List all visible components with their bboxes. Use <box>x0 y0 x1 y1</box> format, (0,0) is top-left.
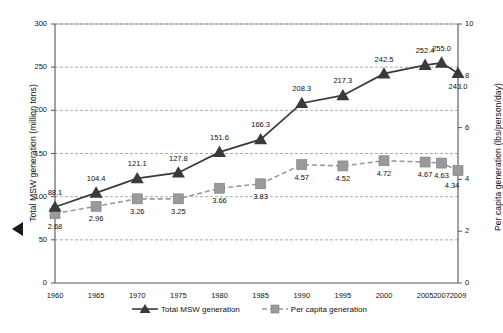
x-axis-tick: 1960 <box>35 291 75 300</box>
legend-label: Per capita generation <box>291 305 367 314</box>
y-axis-right-tick: 2 <box>465 226 491 235</box>
legend-triangle-icon <box>132 303 158 315</box>
data-label-total-msw: 104.4 <box>76 174 116 183</box>
x-axis-tick: 1980 <box>199 291 239 300</box>
y-axis-right-tick: 6 <box>465 123 491 132</box>
data-label-total-msw: 242.5 <box>364 55 404 64</box>
data-label-per-capita: 4.63 <box>422 171 462 180</box>
data-label-per-capita: 4.72 <box>364 169 404 178</box>
y-axis-left-tick: 250 <box>21 62 47 71</box>
legend-item[interactable]: Per capita generation <box>262 303 367 315</box>
legend-item[interactable]: Total MSW generation <box>132 303 240 315</box>
data-label-total-msw: 121.1 <box>117 159 157 168</box>
y-axis-left-tick: 150 <box>21 149 47 158</box>
x-axis-tick: 1970 <box>117 291 157 300</box>
x-axis-tick: 2000 <box>364 291 404 300</box>
data-label-total-msw: 217.3 <box>323 76 363 85</box>
data-label-per-capita: 2.68 <box>35 222 75 231</box>
chart-legend: Total MSW generationPer capita generatio… <box>0 303 499 315</box>
data-label-per-capita: 4.34 <box>432 181 472 190</box>
legend-label: Total MSW generation <box>161 305 240 314</box>
data-label-per-capita: 3.66 <box>199 196 239 205</box>
data-label-total-msw: 127.8 <box>158 154 198 163</box>
data-label-per-capita: 2.96 <box>76 214 116 223</box>
y-axis-left-tick: 300 <box>21 19 47 28</box>
x-axis-tick: 1965 <box>76 291 116 300</box>
x-axis-tick: 1975 <box>158 291 198 300</box>
y-axis-left-tick: 0 <box>21 278 47 287</box>
y-axis-left-tick: 50 <box>21 235 47 244</box>
data-label-total-msw: 243.0 <box>438 82 478 91</box>
y-axis-left-tick: 200 <box>21 105 47 114</box>
data-label-per-capita: 3.26 <box>117 207 157 216</box>
data-label-total-msw: 151.6 <box>199 133 239 142</box>
data-label-total-msw: 88.1 <box>35 188 75 197</box>
data-label-total-msw: 255.0 <box>422 44 462 53</box>
y-axis-right-tick: 10 <box>465 19 491 28</box>
y-axis-right-tick: 0 <box>465 278 491 287</box>
y-axis-right-tick: 8 <box>465 71 491 80</box>
x-axis-tick: 1995 <box>323 291 363 300</box>
data-label-per-capita: 4.57 <box>282 173 322 182</box>
data-label-total-msw: 166.3 <box>241 120 281 129</box>
data-label-per-capita: 4.52 <box>323 174 363 183</box>
x-axis-tick: 1990 <box>282 291 322 300</box>
data-label-per-capita: 3.83 <box>241 192 281 201</box>
x-axis-tick: 2009 <box>438 291 478 300</box>
legend-square-icon <box>262 303 288 315</box>
x-axis-tick: 1985 <box>241 291 281 300</box>
data-label-per-capita: 3.25 <box>158 207 198 216</box>
data-label-total-msw: 208.3 <box>282 84 322 93</box>
